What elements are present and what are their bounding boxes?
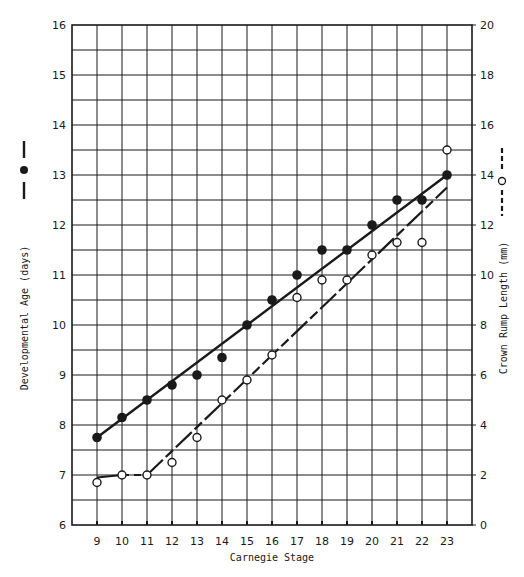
- left-axis-tick-label: 8: [59, 419, 66, 432]
- left-axis-tick-label: 14: [52, 119, 66, 132]
- right-axis-tick-label: 12: [480, 219, 494, 232]
- left-axis-tick-label: 15: [52, 69, 66, 82]
- left-axis-tick-label: 7: [59, 469, 66, 482]
- right-axis-title: Crown Rump Length (mm): [498, 242, 509, 374]
- x-axis-tick-label: 9: [94, 535, 101, 548]
- crl-data-point: [343, 276, 351, 284]
- crl-data-point: [193, 434, 201, 442]
- age-data-point: [242, 320, 252, 330]
- age-data-point: [317, 245, 327, 255]
- crl-data-point: [218, 396, 226, 404]
- right-axis-tick-label: 8: [480, 319, 487, 332]
- crl-data-point: [168, 459, 176, 467]
- right-axis-legend: Crown Rump Length (mm): [498, 148, 509, 374]
- x-axis-tick-label: 17: [290, 535, 304, 548]
- crl-data-point: [443, 146, 451, 154]
- right-axis-tick-label: 0: [480, 519, 487, 532]
- age-data-point: [342, 245, 352, 255]
- x-axis-tick-label: 22: [415, 535, 429, 548]
- crl-data-point: [143, 471, 151, 479]
- age-data-point: [442, 170, 452, 180]
- crl-data-point: [118, 471, 126, 479]
- crl-data-point: [368, 251, 376, 259]
- age-data-point: [392, 195, 402, 205]
- crl-data-point: [318, 276, 326, 284]
- open-circle-icon: [499, 178, 506, 185]
- left-axis-tick-label: 13: [52, 169, 66, 182]
- x-axis-tick-label: 16: [265, 535, 279, 548]
- age-data-point: [367, 220, 377, 230]
- age-data-point: [217, 353, 227, 363]
- right-axis-ticks: 02468101214161820: [472, 19, 494, 532]
- age-data-point: [192, 370, 202, 380]
- left-axis-tick-label: 9: [59, 369, 66, 382]
- x-axis-tick-label: 21: [390, 535, 404, 548]
- x-axis-tick-label: 13: [190, 535, 204, 548]
- left-axis-ticks: 678910111213141516: [52, 19, 66, 532]
- left-axis-tick-label: 12: [52, 219, 66, 232]
- age-data-point: [167, 380, 177, 390]
- x-axis-tick-label: 20: [365, 535, 379, 548]
- crl-data-point: [293, 294, 301, 302]
- right-axis-tick-label: 16: [480, 119, 494, 132]
- chart: 678910111213141516 02468101214161820 910…: [0, 0, 524, 577]
- left-axis-tick-label: 6: [59, 519, 66, 532]
- x-axis-tick-label: 12: [165, 535, 179, 548]
- right-axis-tick-label: 10: [480, 269, 494, 282]
- left-axis-tick-label: 11: [52, 269, 66, 282]
- x-axis-tick-label: 11: [140, 535, 154, 548]
- age-data-point: [117, 413, 127, 423]
- age-data-point: [292, 270, 302, 280]
- crl-data-point: [393, 239, 401, 247]
- age-data-point: [417, 195, 427, 205]
- right-axis-tick-label: 2: [480, 469, 487, 482]
- right-axis-tick-label: 20: [480, 19, 494, 32]
- age-data-point: [267, 295, 277, 305]
- crl-data-point: [243, 376, 251, 384]
- age-data-point: [92, 433, 102, 443]
- x-axis-tick-label: 19: [340, 535, 354, 548]
- crl-data-point: [93, 479, 101, 487]
- crl-data-point: [268, 351, 276, 359]
- crl-data-point: [418, 239, 426, 247]
- filled-circle-icon: [20, 166, 28, 174]
- left-axis-tick-label: 16: [52, 19, 66, 32]
- x-axis-tick-label: 23: [440, 535, 454, 548]
- x-axis-tick-label: 15: [240, 535, 254, 548]
- left-axis-title: Developmental Age (days): [19, 246, 30, 391]
- age-data-point: [142, 395, 152, 405]
- right-axis-tick-label: 6: [480, 369, 487, 382]
- x-axis-tick-label: 18: [315, 535, 329, 548]
- x-axis-tick-label: 10: [115, 535, 129, 548]
- right-axis-tick-label: 4: [480, 419, 487, 432]
- x-axis-title: Carnegie Stage: [230, 552, 314, 563]
- right-axis-tick-label: 14: [480, 169, 494, 182]
- right-axis-tick-label: 18: [480, 69, 494, 82]
- grid-lines: [72, 25, 472, 525]
- left-axis-tick-label: 10: [52, 319, 66, 332]
- x-axis-tick-label: 14: [215, 535, 229, 548]
- left-axis-legend: Developmental Age (days): [19, 141, 30, 390]
